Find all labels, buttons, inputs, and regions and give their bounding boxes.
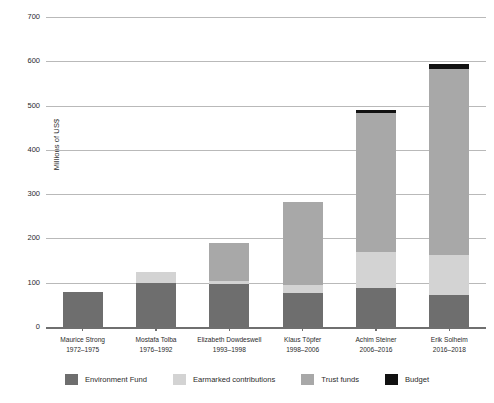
bar-achim-steiner[interactable] <box>356 17 396 327</box>
chart-legend: Environment FundEarmarked contributionsT… <box>0 374 494 385</box>
y-tick-label: 100 <box>0 279 40 287</box>
y-tick-label: 600 <box>0 57 40 65</box>
bar-segment-earmarked-contributions[interactable] <box>136 272 176 283</box>
legend-item-trust-funds[interactable]: Trust funds <box>301 374 359 385</box>
gridline-500 <box>46 106 486 107</box>
legend-swatch-icon <box>301 374 314 385</box>
legend-item-environment-fund[interactable]: Environment Fund <box>65 374 147 385</box>
x-category-years: 2016–2018 <box>399 345 494 355</box>
gridline-400 <box>46 150 486 151</box>
bar-erik-solheim[interactable] <box>429 17 469 327</box>
y-tick-label: 500 <box>0 102 40 110</box>
bar-segment-environment-fund[interactable] <box>136 283 176 327</box>
bar-segment-environment-fund[interactable] <box>209 284 249 327</box>
y-tick-label: 400 <box>0 146 40 154</box>
plot-area <box>46 17 486 327</box>
bar-segment-budget[interactable] <box>356 110 396 113</box>
x-category-name: Erik Solheim <box>431 336 468 343</box>
legend-label: Trust funds <box>321 375 359 384</box>
stacked-bar-chart: Millions of US$ 0100200300400500600700 M… <box>0 0 494 403</box>
bar-segment-environment-fund[interactable] <box>283 293 323 327</box>
legend-swatch-icon <box>173 374 186 385</box>
bar-mostafa-tolba[interactable] <box>136 17 176 327</box>
bar-maurice-strong[interactable] <box>63 17 103 327</box>
bar-segment-budget[interactable] <box>429 64 469 70</box>
bar-segment-earmarked-contributions[interactable] <box>209 281 249 284</box>
bar-segment-environment-fund[interactable] <box>356 288 396 327</box>
legend-swatch-icon <box>385 374 398 385</box>
bar-segment-trust-funds[interactable] <box>429 69 469 255</box>
bar-segment-earmarked-contributions[interactable] <box>356 252 396 288</box>
legend-label: Budget <box>405 375 429 384</box>
bar-segment-earmarked-contributions[interactable] <box>429 255 469 295</box>
legend-item-budget[interactable]: Budget <box>385 374 429 385</box>
bar-segment-environment-fund[interactable] <box>63 292 103 327</box>
y-tick-label: 300 <box>0 190 40 198</box>
bar-segment-trust-funds[interactable] <box>283 202 323 285</box>
bar-segment-trust-funds[interactable] <box>209 243 249 281</box>
legend-swatch-icon <box>65 374 78 385</box>
gridline-600 <box>46 61 486 62</box>
x-axis-line <box>46 327 486 329</box>
y-tick-label: 700 <box>0 13 40 21</box>
gridline-100 <box>46 283 486 284</box>
y-tick-label: 200 <box>0 234 40 242</box>
bar-segment-trust-funds[interactable] <box>356 113 396 252</box>
gridline-700 <box>46 17 486 18</box>
y-tick-label: 0 <box>0 323 40 331</box>
legend-label: Earmarked contributions <box>193 375 275 384</box>
x-category-label: Erik Solheim2016–2018 <box>399 335 494 354</box>
gridline-200 <box>46 238 486 239</box>
x-category-name: Mostafa Tolba <box>136 336 177 343</box>
legend-item-earmarked-contributions[interactable]: Earmarked contributions <box>173 374 275 385</box>
bar-segment-environment-fund[interactable] <box>429 295 469 327</box>
gridline-300 <box>46 194 486 195</box>
bar-elizabeth-dowdeswell[interactable] <box>209 17 249 327</box>
x-category-name: Klaus Töpfer <box>284 336 321 343</box>
legend-label: Environment Fund <box>85 375 147 384</box>
x-category-name: Maurice Strong <box>60 336 105 343</box>
bar-klaus-t-pfer[interactable] <box>283 17 323 327</box>
bar-segment-earmarked-contributions[interactable] <box>283 285 323 293</box>
x-category-name: Achim Steiner <box>355 336 396 343</box>
